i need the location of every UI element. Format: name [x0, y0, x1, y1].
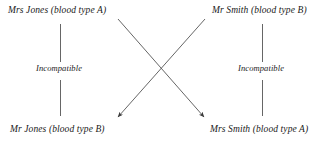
edge-label-incompatible-right: Incompatible: [236, 63, 286, 73]
node-label-mrs-smith: Mrs Smith (blood type A): [210, 124, 308, 134]
blood-type-diagram: Mrs Jones (blood type A) Mr Smith (blood…: [0, 0, 328, 142]
edge-label-incompatible-left: Incompatible: [34, 63, 84, 73]
node-label-mr-jones: Mr Jones (blood type B): [10, 124, 105, 134]
node-label-mrs-jones: Mrs Jones (blood type A): [8, 5, 106, 15]
node-label-mr-smith: Mr Smith (blood type B): [212, 5, 307, 15]
